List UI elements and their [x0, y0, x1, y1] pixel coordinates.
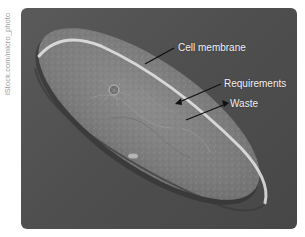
- label-waste: Waste: [230, 98, 258, 110]
- paramecium-illustration: [21, 8, 297, 229]
- figure-caption: [40, 230, 280, 237]
- label-cell-membrane: Cell membrane: [178, 42, 246, 54]
- microscope-photo: Cell membrane Requirements Waste: [21, 8, 297, 229]
- photo-credit: iStock.com/micro_photo: [2, 4, 12, 104]
- label-requirements: Requirements: [224, 78, 286, 90]
